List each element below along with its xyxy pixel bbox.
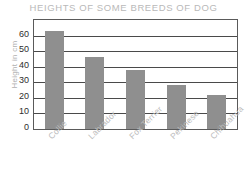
y-tick-label: 40 [5, 60, 29, 70]
chart-title: HEIGHTS OF SOME BREEDS OF DOG [0, 2, 247, 13]
y-tick-label: 30 [5, 75, 29, 85]
y-tick-label: 0 [5, 122, 29, 132]
y-tick-label: 10 [5, 106, 29, 116]
plot-area [33, 19, 238, 130]
bar [45, 31, 64, 129]
bar-series [34, 20, 237, 129]
bar-chart: HEIGHTS OF SOME BREEDS OF DOG Height in … [0, 0, 247, 188]
y-tick-label: 50 [5, 44, 29, 54]
y-tick-label: 20 [5, 91, 29, 101]
x-axis-labels: CollieLabradorFox TerrierPekineseChihuah… [33, 131, 238, 188]
y-tick-label: 60 [5, 29, 29, 39]
